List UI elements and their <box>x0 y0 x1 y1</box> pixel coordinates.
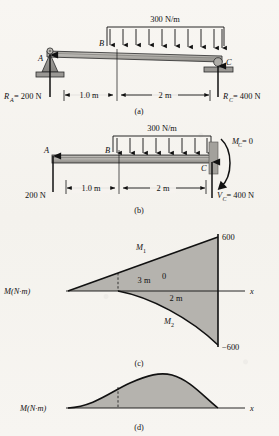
panel-c-label: (c) <box>134 359 143 368</box>
panel-b-load-label: 300 N/m <box>147 124 177 133</box>
panel-a-rc-value: = 400 N <box>233 92 261 101</box>
panel-c-zero-marker: 0 <box>162 272 166 281</box>
panel-b-vc-value: = 400 N <box>227 191 255 200</box>
panel-a-dim-right: 2 m <box>159 91 172 100</box>
panel-a-load-label: 300 N/m <box>150 15 180 24</box>
panel-a-rc-symbol: R <box>222 92 228 101</box>
panel-c-span-lower: 2 m <box>170 294 183 303</box>
panel-b-point-c: C <box>201 164 207 173</box>
panel-b-label: (b) <box>134 206 144 215</box>
panel-b-point-a: A <box>43 146 50 155</box>
panel-c-y-axis-label: M(N·m) <box>3 287 30 296</box>
panel-a-ra-value: = 200 N <box>14 92 42 101</box>
cut-face-b <box>209 142 218 174</box>
panel-b-dim-left: 1.0 m <box>81 184 101 193</box>
panel-c-m2-subscript: 2 <box>171 322 174 328</box>
distributed-load-a: 300 N/m <box>107 15 224 48</box>
panel-d-label: (d) <box>134 423 144 432</box>
panel-b-point-b: B <box>105 146 110 155</box>
beam-a <box>47 51 222 62</box>
panel-a-ra-symbol: R <box>3 92 9 101</box>
panel-b-moment-label: M C = 0 <box>231 137 253 148</box>
panel-a-point-a: A <box>37 54 44 63</box>
panel-c-m1-subscript: 1 <box>143 248 146 254</box>
figure-container: 300 N/m A B C R A = 200 N <box>0 0 279 436</box>
panel-b-shear-label: V C = 400 N <box>217 191 254 202</box>
panel-b: 300 N/m A B C 200 N V C = 400 N M <box>25 124 254 215</box>
beam-b <box>52 155 213 163</box>
panel-b-moment-arc <box>221 139 230 187</box>
panel-a-point-c: C <box>226 58 232 67</box>
panel-d-x-axis-label: x <box>249 404 254 413</box>
panel-a-label: (a) <box>134 107 143 116</box>
panel-a-point-b: B <box>99 39 104 48</box>
panel-a: 300 N/m A B C R A = 200 N <box>3 15 261 116</box>
panel-c-m1-label: M 1 <box>135 243 146 254</box>
panel-a-reaction-a-label: R A = 200 N <box>3 92 42 103</box>
panel-c-peak-value: 600 <box>222 233 235 242</box>
panel-c-min-value: −600 <box>222 343 239 352</box>
panel-b-force-left: 200 N <box>25 191 46 200</box>
panel-d-y-axis-label: M(N·m) <box>19 404 46 413</box>
panel-c-x-axis-label: x <box>249 287 254 296</box>
panel-a-reaction-c-label: R C = 400 N <box>222 92 261 103</box>
panel-c: M(N·m) x M 1 M 2 3 m 0 2 m 600 −600 (c) <box>3 233 254 368</box>
panel-a-dim-left: 1.0 m <box>79 91 99 100</box>
panel-b-dim-right: 2 m <box>157 184 170 193</box>
panel-d: M(N·m) x (d) <box>19 374 254 432</box>
panel-b-mc-value: = 0 <box>242 137 253 146</box>
panel-c-span-upper: 3 m <box>138 276 151 285</box>
panel-c-m2-label: M 2 <box>163 317 174 328</box>
distributed-load-b: 300 N/m <box>113 124 211 153</box>
